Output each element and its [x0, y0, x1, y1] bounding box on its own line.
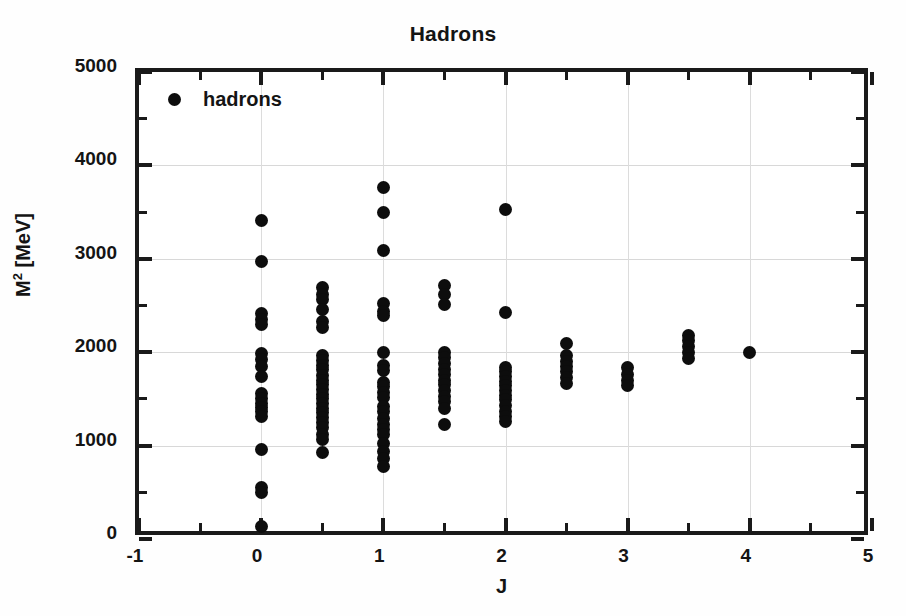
x-axis-minor-tick	[687, 523, 690, 531]
scatter-point	[316, 374, 329, 387]
x-axis-tick	[381, 518, 385, 531]
x-axis-minor-tick-top	[687, 72, 690, 80]
gridline-horizontal	[139, 352, 864, 353]
scatter-point	[621, 368, 634, 381]
y-axis-tick-right	[851, 444, 864, 448]
scatter-point	[255, 307, 268, 320]
scatter-point	[560, 337, 573, 350]
x-axis-minor-tick-top	[565, 72, 568, 80]
x-axis-tick-label: -1	[95, 545, 175, 567]
scatter-point	[438, 346, 451, 359]
x-axis-tick-top	[870, 72, 874, 85]
scatter-point	[499, 410, 512, 423]
scatter-point	[499, 389, 512, 402]
scatter-point	[438, 418, 451, 431]
scatter-point	[499, 405, 512, 418]
x-axis-tick	[748, 518, 752, 531]
x-axis-tick-label: 5	[828, 545, 906, 567]
scatter-point	[377, 206, 390, 219]
scatter-point	[316, 349, 329, 362]
scatter-point	[316, 315, 329, 328]
scatter-point	[255, 318, 268, 331]
scatter-point	[499, 370, 512, 383]
scatter-point	[255, 397, 268, 410]
scatter-point	[377, 391, 390, 404]
scatter-point	[499, 365, 512, 378]
scatter-point	[255, 405, 268, 418]
scatter-point	[316, 402, 329, 415]
x-axis-tick-top	[259, 72, 263, 85]
x-axis-minor-tick	[321, 523, 324, 531]
y-axis-title-unit: [MeV]	[12, 213, 34, 273]
scatter-point	[255, 360, 268, 373]
gridline-vertical	[750, 72, 751, 531]
scatter-point	[377, 400, 390, 413]
scatter-point	[316, 354, 329, 367]
x-axis-tick-label: 0	[217, 545, 297, 567]
scatter-point	[377, 418, 390, 431]
x-axis-tick-top	[504, 72, 508, 85]
scatter-point	[621, 361, 634, 374]
y-axis-minor-tick-right	[856, 397, 864, 400]
scatter-point	[255, 392, 268, 405]
scatter-point	[316, 433, 329, 446]
scatter-point	[682, 329, 695, 342]
x-axis-tick-label: 1	[339, 545, 419, 567]
gridline-vertical	[506, 72, 507, 531]
x-axis-minor-tick	[443, 523, 446, 531]
y-axis-title-base: M	[12, 280, 34, 297]
y-axis-tick-right	[851, 163, 864, 167]
scatter-point	[621, 374, 634, 387]
x-axis-tick-top	[381, 72, 385, 85]
scatter-point	[560, 371, 573, 384]
gridline-horizontal	[139, 259, 864, 260]
scatter-point	[499, 375, 512, 388]
y-axis-tick	[139, 537, 152, 541]
y-axis-tick	[139, 257, 152, 261]
scatter-points-layer	[139, 72, 864, 531]
scatter-point	[255, 353, 268, 366]
gridline-vertical	[261, 72, 262, 531]
scatter-point	[560, 365, 573, 378]
scatter-point	[316, 378, 329, 391]
scatter-point	[499, 379, 512, 392]
scatter-point	[316, 281, 329, 294]
x-axis-tick-top	[748, 72, 752, 85]
x-axis-minor-tick	[565, 523, 568, 531]
y-axis-tick-label: 1000	[0, 429, 117, 451]
scatter-point	[743, 346, 756, 359]
scatter-point	[316, 416, 329, 429]
scatter-point	[499, 384, 512, 397]
scatter-point	[377, 445, 390, 458]
gridline-vertical	[628, 72, 629, 531]
y-axis-minor-tick	[139, 211, 147, 214]
scatter-point	[499, 399, 512, 412]
gridline-horizontal	[139, 165, 864, 166]
scatter-point	[377, 428, 390, 441]
scatter-point	[438, 279, 451, 292]
scatter-point	[621, 379, 634, 392]
x-axis-tick	[504, 518, 508, 531]
scatter-point	[377, 359, 390, 372]
gridline-vertical	[383, 72, 384, 531]
legend-entry-label: hadrons	[203, 88, 282, 111]
legend-marker-icon	[168, 93, 181, 106]
scatter-point	[438, 395, 451, 408]
page-title: Hadrons	[0, 22, 906, 46]
y-axis-tick-right	[851, 350, 864, 354]
y-axis-tick-label: 5000	[0, 55, 117, 77]
scatter-point	[255, 443, 268, 456]
y-axis-tick	[139, 444, 152, 448]
y-axis-minor-tick-right	[856, 304, 864, 307]
x-axis-minor-tick-top	[809, 72, 812, 80]
x-axis-tick-top	[626, 72, 630, 85]
scatter-point	[377, 297, 390, 310]
scatter-point	[316, 363, 329, 376]
scatter-point	[377, 244, 390, 257]
scatter-point	[499, 361, 512, 374]
plot-area	[135, 68, 868, 535]
legend: hadrons	[168, 88, 282, 111]
y-axis-minor-tick	[139, 397, 147, 400]
x-axis-tick	[870, 518, 874, 531]
x-axis-minor-tick-top	[443, 72, 446, 80]
